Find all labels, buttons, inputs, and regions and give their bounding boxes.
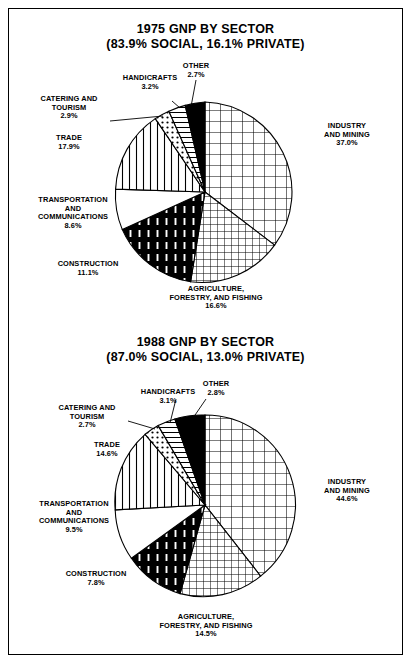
figure-page: 1975 GNP BY SECTOR (83.9% SOCIAL, 16.1% … <box>0 0 411 663</box>
pie-label-catering-1988: CATERING AND TOURISM 2.7% <box>46 404 128 430</box>
pie-label-handicrafts-1988: HANDICRAFTS 3.1% <box>126 388 210 405</box>
pie-label-construction-1988: CONSTRUCTION 7.8% <box>48 570 144 587</box>
pie-label-transportation-1988: TRANSPORTATION AND COMMUNICATIONS 9.5% <box>22 500 126 534</box>
pie-label-agriculture-1988: AGRICULTURE, FORESTRY, AND FISHING 14.5% <box>126 613 286 639</box>
pie-label-trade-1988: TRADE 14.6% <box>78 441 136 458</box>
leader-catering-1988 <box>128 421 155 429</box>
pie-label-industry-1988: INDUSTRY AND MINING 44.6% <box>306 478 388 504</box>
pie-1988-graphic <box>0 0 411 663</box>
